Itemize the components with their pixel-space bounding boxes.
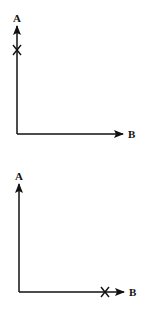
x-axis-label: B xyxy=(128,128,136,140)
panel-bottom: A B xyxy=(15,170,137,298)
panel-top: A B xyxy=(13,12,136,140)
diagram: A B A B xyxy=(0,0,143,316)
y-axis-label: A xyxy=(15,170,23,182)
x-axis-label: B xyxy=(129,286,137,298)
y-axis-label: A xyxy=(13,12,21,24)
